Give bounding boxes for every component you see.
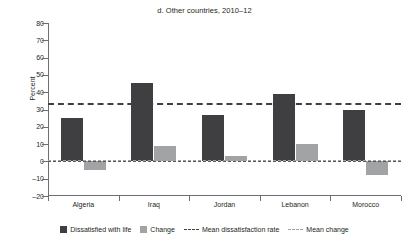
y-axis-tick [42,127,48,128]
chart-figure: d. Other countries, 2010–12 Percent 8070… [0,0,409,246]
y-axis-tick-label: 20 [4,123,44,130]
bar-dissatisfied [61,118,83,161]
x-axis-label-lebanon: Lebanon [260,201,331,208]
y-axis-tick-label: 70 [4,37,44,44]
legend-swatch-icon [60,226,67,233]
bar-change [366,161,388,175]
bar-dissatisfied [343,110,365,162]
y-axis-tick-label: 50 [4,71,44,78]
reference-line [48,103,401,105]
y-axis-tick-label: 10 [4,141,44,148]
legend-swatch-icon [140,226,147,233]
bar-dissatisfied [131,83,153,162]
plot-area [48,23,401,196]
x-axis-tick [401,196,402,201]
y-axis-tick [42,75,48,76]
legend-item[interactable]: Change [140,226,175,233]
x-axis-label-iraq: Iraq [119,201,190,208]
y-axis-tick [42,23,48,24]
x-axis-label-algeria: Algeria [48,201,119,208]
legend-label: Mean dissatisfaction rate [202,226,279,233]
legend-dash-icon [288,229,303,230]
y-axis-tick-label: 80 [4,20,44,27]
y-axis-tick [42,110,48,111]
y-axis-tick-label: 30 [4,106,44,113]
chart-legend: Dissatisfied with lifeChangeMean dissati… [0,226,409,233]
y-axis-tick [42,58,48,59]
y-axis-tick-label: –10 [4,175,44,182]
y-axis-tick-label: 60 [4,54,44,61]
x-axis-label-morocco: Morocco [330,201,401,208]
y-axis-tick-label: 40 [4,89,44,96]
legend-item[interactable]: Mean dissatisfaction rate [184,226,279,233]
x-axis-label-jordan: Jordan [189,201,260,208]
y-axis-tick [42,92,48,93]
y-axis-tick-label: –20 [4,193,44,200]
y-axis-tick [42,179,48,180]
legend-dash-icon [184,229,199,230]
y-axis-tick-label: 0 [4,158,44,165]
bar-dissatisfied [202,115,224,162]
y-axis-tick [42,40,48,41]
y-axis-tick [42,144,48,145]
legend-label: Change [150,226,175,233]
legend-label: Dissatisfied with life [70,226,131,233]
y-axis-tick-labels: 80706050403020100–10–20 [0,23,44,196]
zero-baseline [48,161,401,162]
legend-item[interactable]: Mean change [288,226,348,233]
chart-title: d. Other countries, 2010–12 [0,6,409,15]
bar-change [84,161,106,170]
legend-label: Mean change [306,226,348,233]
legend-item[interactable]: Dissatisfied with life [60,226,131,233]
